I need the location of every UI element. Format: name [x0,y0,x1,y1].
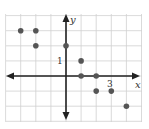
x-axis-label: x [135,79,141,90]
data-point [18,28,24,34]
y-axis-down-arrow-icon [63,112,70,120]
data-point [78,73,84,79]
y-axis-up-arrow-icon [63,14,70,22]
data-point [93,73,99,79]
x-tick-label-3: 3 [107,79,113,89]
data-point [33,43,39,49]
grid-lines [6,14,142,122]
data-point [78,58,84,64]
data-point [109,88,115,94]
y-axis-label: y [69,14,76,25]
scatter-plot: x y 3 1 [0,0,149,129]
data-point [124,103,130,109]
x-axis-left-arrow-icon [6,73,14,80]
axes [6,14,140,120]
data-point [93,88,99,94]
y-tick-label-1: 1 [57,56,63,66]
data-point [33,28,39,34]
data-point [63,43,69,49]
data-points [18,28,129,109]
